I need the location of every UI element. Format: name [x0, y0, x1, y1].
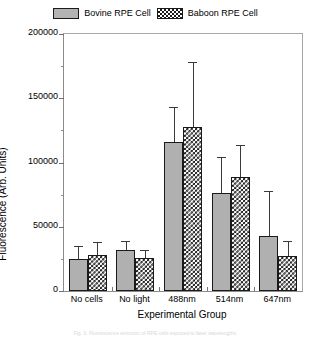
x-tick-label-647nm: 647nm: [253, 294, 301, 305]
y-tick-major: [59, 291, 64, 292]
error-bar: [288, 241, 289, 256]
y-tick-major: [59, 98, 64, 99]
bar-no-light-bovine: [116, 250, 135, 291]
legend-swatch-baboon-icon: [157, 8, 183, 19]
x-tick-mark: [159, 287, 160, 291]
y-tick-label: 50000: [0, 221, 58, 230]
error-bar-cap: [93, 242, 102, 243]
plot-area: [63, 33, 303, 292]
error-bar: [193, 62, 194, 126]
error-bar-cap: [121, 241, 130, 242]
y-tick-label: 150000: [0, 92, 58, 101]
legend-label-bovine: Bovine RPE Cell: [84, 8, 151, 19]
y-tick-label: 0: [0, 285, 58, 294]
y-axis-title: Fluorescence (Arb. Units): [0, 0, 8, 104]
y-tick-major: [59, 163, 64, 164]
y-tick-minor: [61, 259, 64, 260]
error-bar: [97, 242, 98, 255]
error-bar-cap: [236, 145, 245, 146]
error-bar: [269, 191, 270, 236]
legend-entry-bovine: Bovine RPE Cell: [53, 8, 151, 19]
y-tick-label: 100000: [0, 157, 58, 166]
error-bar-cap: [169, 107, 178, 108]
error-bar: [221, 157, 222, 193]
error-bar-cap: [217, 157, 226, 158]
x-tick-label-514nm: 514nm: [206, 294, 254, 305]
error-bar: [78, 246, 79, 259]
x-tick-label-488nm: 488nm: [158, 294, 206, 305]
error-bar: [174, 107, 175, 142]
error-bar-cap: [283, 241, 292, 242]
y-tick-label: 200000: [0, 28, 58, 37]
y-tick-minor: [61, 66, 64, 67]
error-bar: [240, 145, 241, 177]
x-tick-label-no-light: No light: [111, 294, 159, 305]
error-bar: [126, 241, 127, 250]
bar-514nm-bovine: [212, 193, 231, 291]
bar-no-light-baboon: [135, 258, 154, 291]
bar-no-cells-bovine: [69, 259, 88, 291]
x-tick-label-no-cells: No cells: [63, 294, 111, 305]
x-axis-tick-labels: No cellsNo light488nm514nm647nm: [63, 294, 301, 308]
figure-caption: Fig. 3. Fluorescence emission of RPE cel…: [8, 330, 303, 337]
y-axis-tick-labels: 050000100000150000200000: [0, 0, 60, 343]
error-bar: [145, 250, 146, 258]
figure-container: Bovine RPE Cell Baboon RPE Cell 05000010…: [0, 0, 311, 343]
error-bar-cap: [188, 62, 197, 63]
bar-488nm-bovine: [164, 142, 183, 291]
error-bar-cap: [264, 191, 273, 192]
x-tick-mark: [254, 287, 255, 291]
error-bar-cap: [74, 246, 83, 247]
error-bar-cap: [140, 250, 149, 251]
y-tick-major: [59, 227, 64, 228]
legend-label-baboon: Baboon RPE Cell: [188, 8, 258, 19]
x-tick-mark: [112, 287, 113, 291]
x-tick-mark: [207, 287, 208, 291]
bar-no-cells-baboon: [88, 255, 107, 291]
y-tick-minor: [61, 130, 64, 131]
y-tick-major: [59, 34, 64, 35]
bar-647nm-baboon: [278, 256, 297, 291]
legend-entry-baboon: Baboon RPE Cell: [157, 8, 258, 19]
bar-647nm-bovine: [259, 236, 278, 291]
y-tick-minor: [61, 195, 64, 196]
bar-488nm-baboon: [183, 127, 202, 291]
y-axis-title-text: Fluorescence (Arb. Units): [0, 104, 8, 304]
plot-inner: [64, 34, 302, 291]
x-axis-title: Experimental Group: [63, 309, 301, 320]
bar-514nm-baboon: [231, 177, 250, 291]
